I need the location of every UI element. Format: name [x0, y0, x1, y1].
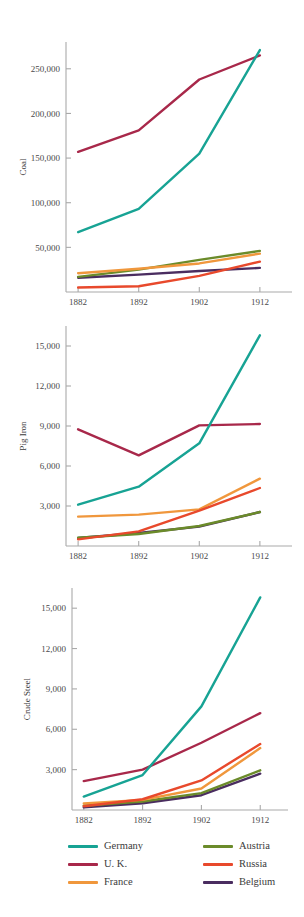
legend-label: Austria: [239, 841, 270, 852]
y-axis-title: Coal: [18, 158, 28, 175]
coal-chart: 50,000100,000150,000200,000250,000188218…: [0, 30, 304, 310]
legend-column-right: AustriaRussiaBelgium: [203, 838, 275, 892]
chart-panel-crude-steel: 3,0006,0009,00012,00015,0001882189219021…: [0, 576, 304, 831]
legend-label: France: [104, 877, 133, 888]
y-tick-label: 12,000: [41, 644, 66, 654]
x-tick-label: 1902: [190, 297, 208, 307]
x-tick-label: 1892: [134, 815, 152, 825]
y-tick-label: 150,000: [31, 153, 61, 163]
y-tick-label: 3,000: [40, 501, 61, 511]
legend-swatch-icon: [203, 881, 233, 884]
y-tick-label: 9,000: [46, 684, 67, 694]
series-line-germany: [78, 335, 260, 504]
chart-panel-pig-iron: 3,0006,0009,00012,00015,0001882189219021…: [0, 318, 304, 568]
crude-steel-chart: 3,0006,0009,00012,00015,0001882189219021…: [0, 576, 304, 831]
legend-column-left: GermanyU. K.France: [68, 838, 143, 892]
legend-swatch-icon: [203, 863, 233, 866]
y-tick-label: 12,000: [35, 381, 60, 391]
legend-item[interactable]: Germany: [68, 838, 143, 854]
legend-label: Germany: [104, 841, 143, 852]
legend-item[interactable]: Russia: [203, 856, 275, 872]
x-tick-label: 1882: [69, 551, 87, 561]
legend-label: Belgium: [239, 877, 275, 888]
legend-item[interactable]: Belgium: [203, 874, 275, 890]
legend-swatch-icon: [68, 863, 98, 866]
x-tick-label: 1912: [251, 297, 269, 307]
legend-item[interactable]: France: [68, 874, 143, 890]
series-line-u-k: [84, 713, 260, 781]
legend-swatch-icon: [68, 881, 98, 884]
multi-panel-line-chart-figure: 50,000100,000150,000200,000250,000188218…: [0, 0, 304, 917]
y-tick-label: 15,000: [35, 341, 60, 351]
legend-swatch-icon: [68, 845, 98, 848]
y-tick-label: 250,000: [31, 64, 61, 74]
x-tick-label: 1902: [190, 551, 208, 561]
y-tick-label: 50,000: [35, 243, 60, 253]
legend-swatch-icon: [203, 845, 233, 848]
legend-label: Russia: [239, 859, 267, 870]
x-tick-label: 1912: [251, 551, 269, 561]
y-tick-label: 6,000: [46, 724, 67, 734]
x-tick-label: 1892: [130, 297, 148, 307]
y-tick-label: 3,000: [46, 765, 67, 775]
chart-legend: GermanyU. K.France AustriaRussiaBelgium: [0, 838, 304, 894]
x-tick-label: 1902: [192, 815, 210, 825]
y-axis-title: Pig Iron: [18, 421, 28, 451]
y-tick-label: 100,000: [31, 198, 61, 208]
y-tick-label: 15,000: [41, 603, 66, 613]
y-tick-label: 6,000: [40, 461, 61, 471]
y-tick-label: 200,000: [31, 109, 61, 119]
chart-panel-coal: 50,000100,000150,000200,000250,000188218…: [0, 30, 304, 310]
series-line-u-k: [78, 424, 260, 455]
x-tick-label: 1882: [75, 815, 93, 825]
x-tick-label: 1912: [251, 815, 269, 825]
x-tick-label: 1892: [130, 551, 148, 561]
legend-item[interactable]: U. K.: [68, 856, 143, 872]
y-axis-title: Crude Steel: [22, 677, 32, 720]
legend-label: U. K.: [104, 859, 127, 870]
legend-item[interactable]: Austria: [203, 838, 275, 854]
y-tick-label: 9,000: [40, 421, 61, 431]
series-line-u-k: [78, 55, 260, 151]
pig-iron-chart: 3,0006,0009,00012,00015,0001882189219021…: [0, 318, 304, 568]
x-tick-label: 1882: [69, 297, 87, 307]
